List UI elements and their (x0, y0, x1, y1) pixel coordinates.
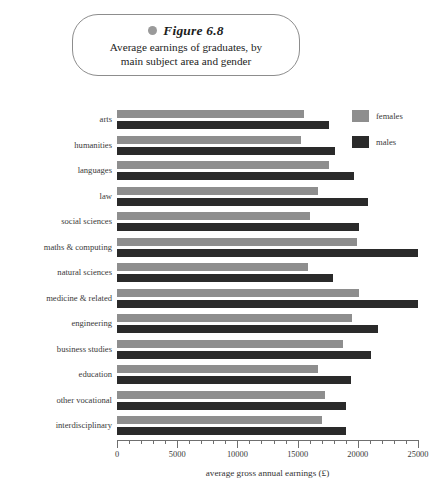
y-axis-category-label: interdisciplinary (0, 420, 112, 430)
y-axis-category-label: languages (0, 165, 112, 175)
bar-males (117, 402, 346, 410)
bar-group: engineering (117, 314, 418, 340)
x-tick-major (358, 440, 359, 448)
x-tick-minor (322, 440, 323, 444)
bar-males (117, 325, 378, 333)
bar-group: education (117, 365, 418, 391)
x-tick-label: 10000 (227, 450, 248, 459)
bar-males (117, 274, 333, 282)
legend-swatch-females-icon (352, 110, 369, 122)
x-tick-major (177, 440, 178, 448)
x-tick-major (298, 440, 299, 448)
bar-females (117, 314, 352, 322)
chart-figure: artshumanitieslanguageslawsocial science… (0, 0, 448, 499)
bar-group: social sciences (117, 212, 418, 238)
x-tick-minor (382, 440, 383, 444)
x-tick-label: 5000 (169, 450, 186, 459)
bar-males (117, 223, 359, 231)
y-axis-category-label: business studies (0, 344, 112, 354)
bar-females (117, 365, 318, 373)
legend-label-females: females (376, 111, 403, 121)
x-tick-minor (274, 440, 275, 444)
bar-females (117, 161, 329, 169)
x-tick-minor (310, 440, 311, 444)
x-tick-minor (370, 440, 371, 444)
x-tick-minor (201, 440, 202, 444)
x-tick-label: 25000 (408, 450, 429, 459)
bar-females (117, 289, 359, 297)
x-tick-minor (394, 440, 395, 444)
bar-males (117, 249, 418, 257)
x-tick-minor (346, 440, 347, 444)
bar-males (117, 121, 329, 129)
bar-group: other vocational (117, 391, 418, 417)
x-axis-title: average gross annual earnings (£) (117, 468, 418, 478)
y-axis-category-label: social sciences (0, 216, 112, 226)
y-axis-category-label: education (0, 369, 112, 379)
x-tick-label: 15000 (287, 450, 308, 459)
x-tick-minor (406, 440, 407, 444)
bar-females (117, 212, 310, 220)
bar-females (117, 416, 322, 424)
y-axis-category-label: engineering (0, 318, 112, 328)
bar-group: medicine & related (117, 289, 418, 315)
x-tick-minor (129, 440, 130, 444)
x-tick-minor (261, 440, 262, 444)
y-axis-category-label: humanities (0, 140, 112, 150)
x-tick-minor (249, 440, 250, 444)
bar-males (117, 427, 346, 435)
legend-item-females: females (352, 110, 403, 122)
legend-item-males: males (352, 136, 403, 148)
y-axis-category-label: law (0, 191, 112, 201)
bar-females (117, 238, 357, 246)
x-tick-minor (286, 440, 287, 444)
bar-females (117, 263, 308, 271)
bar-males (117, 198, 368, 206)
bar-group: natural sciences (117, 263, 418, 289)
bar-group: interdisciplinary (117, 416, 418, 442)
y-axis-category-label: arts (0, 114, 112, 124)
bar-males (117, 300, 418, 308)
bar-females (117, 136, 301, 144)
x-axis-line (117, 440, 418, 441)
bar-males (117, 376, 351, 384)
y-axis-category-label: medicine & related (0, 293, 112, 303)
bar-group: maths & computing (117, 238, 418, 264)
legend-label-males: males (376, 137, 396, 147)
x-tick-major (418, 440, 419, 448)
x-tick-major (237, 440, 238, 448)
x-tick-minor (165, 440, 166, 444)
x-tick-minor (225, 440, 226, 444)
bar-females (117, 110, 304, 118)
bar-group: business studies (117, 340, 418, 366)
bar-group: languages (117, 161, 418, 187)
x-tick-label: 20000 (347, 450, 368, 459)
bar-males (117, 351, 371, 359)
y-axis-category-label: maths & computing (0, 242, 112, 252)
x-tick-minor (141, 440, 142, 444)
bar-males (117, 172, 354, 180)
bar-females (117, 340, 343, 348)
x-tick-minor (189, 440, 190, 444)
x-tick-label: 0 (115, 450, 119, 459)
x-tick-major (117, 440, 118, 448)
chart-legend: females males (352, 110, 403, 162)
x-tick-minor (213, 440, 214, 444)
y-axis-category-label: other vocational (0, 395, 112, 405)
legend-swatch-males-icon (352, 136, 369, 148)
bar-group: law (117, 187, 418, 213)
x-tick-minor (334, 440, 335, 444)
bar-females (117, 187, 318, 195)
bar-females (117, 391, 325, 399)
bar-males (117, 147, 335, 155)
x-tick-minor (153, 440, 154, 444)
y-axis-category-label: natural sciences (0, 267, 112, 277)
